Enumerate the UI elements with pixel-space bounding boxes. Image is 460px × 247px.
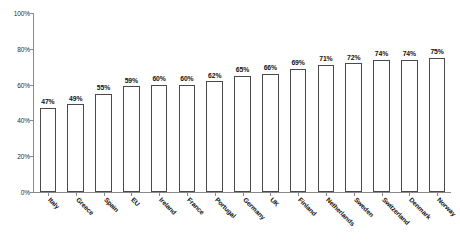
x-axis-tick — [131, 193, 132, 196]
bars-container: 47%49%55%59%60%60%62%65%66%69%71%72%74%7… — [34, 13, 451, 192]
bar[interactable] — [318, 65, 335, 192]
bar[interactable] — [40, 108, 57, 192]
x-axis-category-label: EU — [130, 196, 142, 208]
y-axis-tick — [30, 49, 34, 50]
bar-value-label: 49% — [69, 95, 82, 103]
bar-value-label: 69% — [291, 59, 304, 67]
bar-slot: 66% — [262, 13, 279, 192]
y-axis-tick — [30, 156, 34, 157]
bar-value-label: 62% — [208, 72, 221, 80]
x-axis-category-label: Greece — [74, 196, 95, 217]
y-axis-tick — [30, 85, 34, 86]
bar-slot: 74% — [373, 13, 390, 192]
x-axis-tick — [437, 193, 438, 196]
bar-slot: 65% — [234, 13, 251, 192]
bar-slot: 60% — [179, 13, 196, 192]
bar-slot: 55% — [95, 13, 112, 192]
y-axis-tick-label: 40% — [0, 117, 30, 124]
x-axis-category-label: Switzerland — [380, 196, 411, 227]
x-axis-category-label: UK — [269, 196, 281, 208]
x-axis-category-label: France — [185, 196, 206, 217]
x-axis-category-label: Norway — [435, 196, 457, 218]
y-axis-tick-labels: 0%20%40%60%80%100% — [0, 0, 30, 247]
bar-value-label: 47% — [41, 98, 54, 106]
x-axis-category-label: Finland — [296, 196, 318, 218]
x-axis-category-label: Denmark — [408, 196, 433, 221]
bar-chart: 0%20%40%60%80%100% 47%49%55%59%60%60%62%… — [0, 0, 460, 247]
bar[interactable] — [262, 74, 279, 192]
bar[interactable] — [123, 86, 140, 192]
x-axis-tick — [326, 193, 327, 196]
y-axis-tick-label: 100% — [0, 10, 30, 17]
bar-slot: 71% — [318, 13, 335, 192]
bar-value-label: 75% — [430, 48, 443, 56]
y-axis-tick — [30, 192, 34, 193]
bar-slot: 49% — [67, 13, 84, 192]
x-axis-tick — [270, 193, 271, 196]
bar[interactable] — [179, 85, 196, 192]
x-axis-category-label: Italy — [46, 196, 61, 211]
bar-slot: 62% — [206, 13, 223, 192]
bar[interactable] — [151, 85, 168, 192]
bar-value-label: 60% — [180, 75, 193, 83]
y-axis-tick-label: 80% — [0, 45, 30, 52]
bar-slot: 47% — [40, 13, 57, 192]
x-axis-tick — [159, 193, 160, 196]
y-axis-tick-label: 60% — [0, 81, 30, 88]
bar-slot: 60% — [151, 13, 168, 192]
bar-value-label: 60% — [152, 75, 165, 83]
bar[interactable] — [234, 76, 251, 192]
bar[interactable] — [67, 104, 84, 192]
x-axis-category-label: Portugal — [213, 196, 237, 220]
bar-value-label: 55% — [97, 84, 110, 92]
bar[interactable] — [401, 60, 418, 192]
bar-value-label: 59% — [125, 77, 138, 85]
bar-value-label: 74% — [403, 50, 416, 58]
bar-slot: 72% — [345, 13, 362, 192]
bar[interactable] — [290, 69, 307, 193]
x-axis-category-label: Germany — [241, 196, 266, 221]
bar[interactable] — [345, 63, 362, 192]
x-axis-category-label: Sweden — [352, 196, 375, 219]
bar-value-label: 74% — [375, 50, 388, 58]
y-axis-tick-label: 0% — [0, 189, 30, 196]
x-axis-tick — [104, 193, 105, 196]
x-axis-tick — [215, 193, 216, 196]
plot-area: 0%20%40%60%80%100% 47%49%55%59%60%60%62%… — [0, 0, 460, 247]
bar-value-label: 72% — [347, 54, 360, 62]
bar-slot: 75% — [429, 13, 446, 192]
bar-slot: 69% — [290, 13, 307, 192]
x-axis-tick — [243, 193, 244, 196]
bar[interactable] — [206, 81, 223, 192]
bar-value-label: 66% — [264, 64, 277, 72]
bar[interactable] — [95, 94, 112, 192]
x-axis-tick — [298, 193, 299, 196]
y-axis-tick — [30, 120, 34, 121]
bar-slot: 74% — [401, 13, 418, 192]
bar-slot: 59% — [123, 13, 140, 192]
x-axis-category-label: Spain — [102, 196, 120, 214]
x-axis-tick — [76, 193, 77, 196]
bar[interactable] — [373, 60, 390, 192]
x-axis-category-label: Ireland — [157, 196, 177, 216]
y-axis-tick — [30, 13, 34, 14]
x-axis-tick — [187, 193, 188, 196]
x-axis-tick — [354, 193, 355, 196]
bar[interactable] — [429, 58, 446, 192]
bar-value-label: 71% — [319, 55, 332, 63]
x-axis-tick — [48, 193, 49, 196]
y-axis-tick-label: 20% — [0, 153, 30, 160]
bar-value-label: 65% — [236, 66, 249, 74]
x-axis-tick — [409, 193, 410, 196]
x-axis-tick — [382, 193, 383, 196]
x-axis-category-labels: ItalyGreeceSpainEUIrelandFrancePortugalG… — [34, 196, 451, 247]
